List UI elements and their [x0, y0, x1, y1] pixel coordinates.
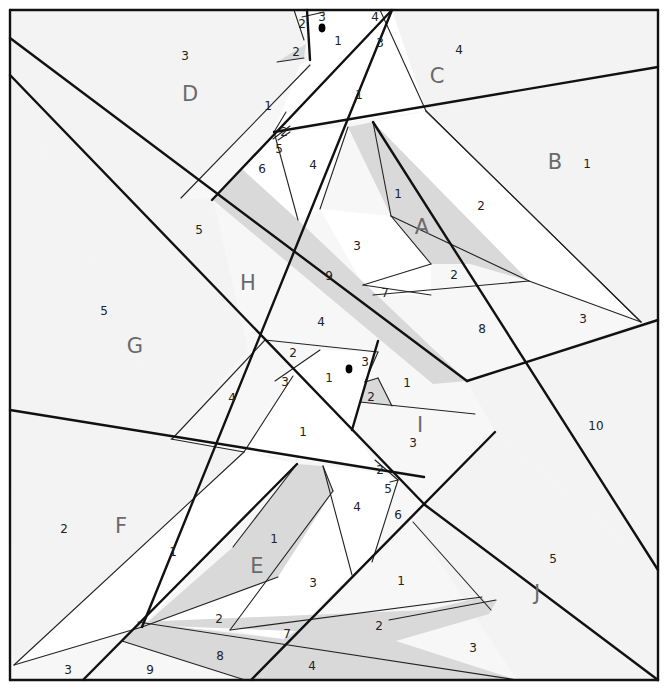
section-label-e: E — [250, 554, 263, 578]
piece-number: 1 — [264, 99, 272, 113]
piece-number: 3 — [181, 49, 189, 63]
piece-number: 2 — [215, 612, 223, 626]
piece-number: 5 — [275, 142, 283, 156]
section-label-i: I — [417, 413, 423, 437]
piece-number: 5 — [195, 223, 203, 237]
piece-number: 7 — [283, 627, 291, 641]
piece-number: 4 — [371, 10, 379, 24]
piece-number: 4 — [353, 500, 361, 514]
piece-number: 3 — [579, 312, 587, 326]
piece-number: 8 — [478, 322, 486, 336]
section-label-g: G — [127, 334, 143, 358]
piece-number: 9 — [325, 269, 333, 283]
piece-number: 1 — [334, 34, 342, 48]
section-label-j: J — [532, 581, 540, 605]
piece-number: 6 — [258, 162, 266, 176]
piece-number: 9 — [146, 663, 154, 677]
piece-number: 2 — [367, 390, 375, 404]
piece-number: 2 — [477, 199, 485, 213]
piece-number: 3 — [376, 36, 384, 50]
piece-number: 1 — [325, 371, 333, 385]
piece-number: 3 — [469, 641, 477, 655]
section-label-b: B — [548, 150, 562, 174]
piece-number: 2 — [376, 463, 384, 477]
piece-number: 4 — [309, 158, 317, 172]
piece-number: 5 — [100, 304, 108, 318]
piece-number: 1 — [355, 88, 363, 102]
piece-number: 4 — [317, 315, 325, 329]
piece-number: 2 — [375, 619, 383, 633]
piece-number: 3 — [361, 355, 369, 369]
piece-number: 3 — [353, 239, 361, 253]
registration-dot — [319, 24, 326, 33]
piece-number: 2 — [289, 346, 297, 360]
piece-number: 5 — [384, 482, 392, 496]
piece-number: 4 — [308, 659, 316, 673]
piece-number: 1 — [299, 425, 307, 439]
section-label-a: A — [415, 215, 430, 239]
piece-number: 3 — [309, 576, 317, 590]
piece-number: 1 — [394, 187, 402, 201]
piece-number: 4 — [455, 43, 463, 57]
piece-number: 2 — [60, 522, 68, 536]
quilt-pattern-diagram: 3212314341125641232978355423131241310254… — [0, 0, 667, 693]
piece-number: 3 — [318, 10, 326, 24]
piece-number: 1 — [270, 532, 278, 546]
piece-number: 5 — [549, 552, 557, 566]
piece-number: 6 — [394, 508, 402, 522]
section-label-f: F — [115, 514, 127, 538]
section-label-c: C — [430, 64, 445, 88]
piece-number: 1 — [397, 574, 405, 588]
piece-number: 4 — [228, 391, 236, 405]
piece-number: 8 — [216, 649, 224, 663]
piece-number: 2 — [280, 125, 288, 139]
piece-number: 2 — [292, 45, 300, 59]
piece-number: 3 — [409, 436, 417, 450]
piece-number: 2 — [298, 17, 306, 31]
section-label-h: H — [240, 271, 256, 295]
piece-number: 3 — [281, 375, 289, 389]
registration-dot — [346, 365, 353, 374]
piece-number: 1 — [583, 157, 591, 171]
piece-number: 2 — [450, 268, 458, 282]
section-label-d: D — [182, 82, 198, 106]
piece-number: 1 — [169, 545, 177, 559]
piece-number: 10 — [588, 419, 603, 433]
piece-number: 3 — [64, 663, 72, 677]
piece-number: 7 — [381, 286, 389, 300]
piece-number: 1 — [403, 376, 411, 390]
